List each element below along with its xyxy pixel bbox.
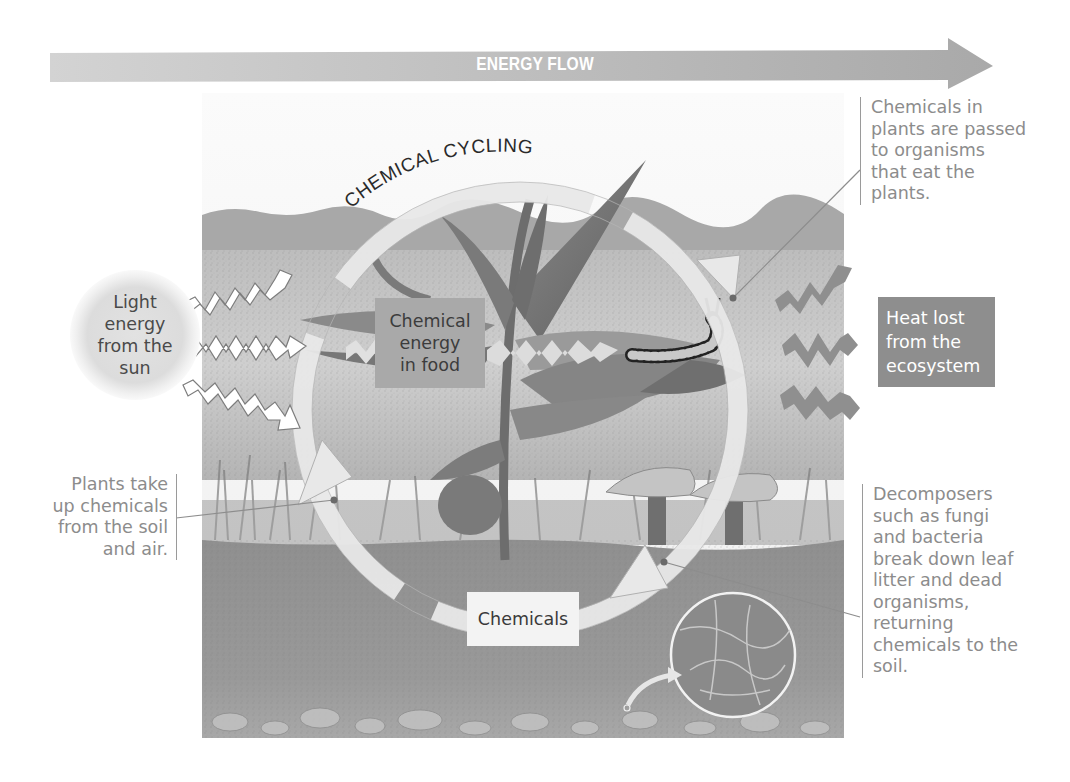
callout-decomposers: Decomposers such as fungi and bacteria b… xyxy=(862,484,1018,678)
energy-flow-label: ENERGY FLOW xyxy=(96,53,973,75)
heat-lost-box: Heat lost from the ecosystem xyxy=(878,297,995,387)
chemicals-box: Chemicals xyxy=(467,592,579,646)
chemical-energy-box: Chemical energy in food xyxy=(375,298,485,388)
sun-label: Light energy from the sun xyxy=(97,291,172,379)
decomposer-pointer-dot xyxy=(661,559,668,566)
consumer-pointer-dot xyxy=(730,295,737,302)
callout-consumers: Chemicals in plants are passed to organi… xyxy=(860,97,1026,205)
callout-plants-uptake: Plants take up chemicals from the soil a… xyxy=(20,474,177,560)
sun: Light energy from the sun xyxy=(70,270,200,400)
uptake-pointer-dot xyxy=(331,497,338,504)
